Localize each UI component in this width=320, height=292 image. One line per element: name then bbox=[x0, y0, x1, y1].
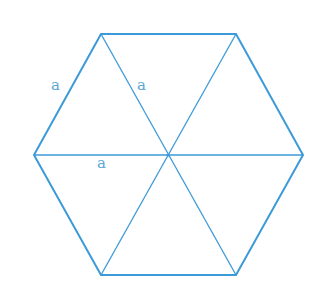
hexagon-diagram bbox=[0, 0, 320, 292]
label-horizontal-a: a bbox=[97, 156, 106, 171]
label-radius-a: a bbox=[137, 78, 146, 93]
label-side-a: a bbox=[51, 78, 60, 93]
center-point bbox=[167, 154, 170, 157]
